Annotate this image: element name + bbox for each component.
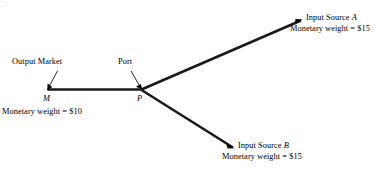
edge-port-to-source-b [142, 90, 234, 148]
weight-input-source-a: Monetary weight = $15 [290, 24, 370, 34]
node-label-p: P [137, 94, 142, 104]
edge-port-to-source-a [142, 21, 302, 90]
callout-arrow-port [131, 71, 142, 89]
label-input-source-b-name: Input Source [238, 141, 282, 150]
callout-arrow-output-market [47, 71, 57, 90]
callout-output-market: Output Market [12, 57, 62, 67]
label-input-source-b-id: B [284, 141, 289, 150]
label-input-source-a-id: A [352, 13, 357, 22]
node-label-m: M [43, 94, 50, 104]
network-diagram: Figure Output Market M Monetary weigh [0, 0, 389, 169]
label-input-source-a-name: Input Source [306, 13, 350, 22]
callout-port: Port [118, 57, 132, 67]
label-input-source-b: Input Source B [238, 141, 289, 151]
label-input-source-a: Input Source A [306, 13, 357, 23]
weight-output-market: Monetary weight = $10 [2, 107, 82, 117]
weight-input-source-b: Monetary weight = $15 [222, 152, 302, 162]
